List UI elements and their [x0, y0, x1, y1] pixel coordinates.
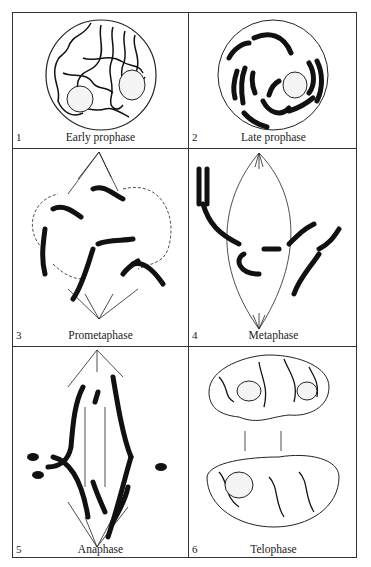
panel-caption: Metaphase — [189, 329, 358, 341]
metaphase-illustration — [189, 149, 358, 346]
panel-metaphase: 4 Metaphase — [189, 149, 358, 346]
nucleolus — [283, 72, 307, 98]
condensed-chromosomes — [229, 35, 322, 127]
chromosomes — [48, 377, 131, 537]
late-prophase-illustration — [189, 13, 358, 148]
panel-prometaphase: 3 Prometaphase — [13, 149, 188, 346]
panel-telophase: 6 Telophase — [189, 347, 358, 559]
nuclear-envelope-fragments — [32, 187, 171, 279]
midbody-fibers — [245, 431, 281, 451]
early-prophase-illustration — [13, 13, 188, 148]
panel-anaphase: 5 Anaphase — [13, 347, 188, 559]
panel-caption: Anaphase — [13, 543, 188, 555]
chromosomes — [199, 169, 339, 294]
prometaphase-illustration — [13, 149, 188, 346]
panel-early-prophase: 1 Early prophase — [13, 13, 188, 148]
telophase-illustration — [189, 347, 358, 559]
chromosomes — [43, 188, 163, 299]
panel-caption: Telophase — [189, 543, 358, 555]
mitosis-figure-grid: 1 Early prophase 2 Late prophase — [12, 12, 357, 558]
nucleolus — [67, 70, 145, 112]
panel-caption: Prometaphase — [13, 329, 188, 341]
panel-caption: Early prophase — [13, 131, 188, 143]
spindle-poles — [253, 153, 265, 329]
anaphase-illustration — [13, 347, 188, 559]
panel-caption: Late prophase — [189, 131, 358, 143]
panel-late-prophase: 2 Late prophase — [189, 13, 358, 148]
spindle-fibers — [68, 350, 128, 547]
